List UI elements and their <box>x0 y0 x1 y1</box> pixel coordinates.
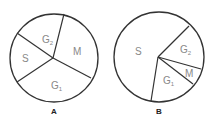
pie-diagram-a: G2MSG1A <box>10 14 98 116</box>
phase-label: M <box>185 68 193 79</box>
diagram-caption: B <box>156 107 162 116</box>
pie-diagram-b: SG2MG1B <box>114 12 204 116</box>
phase-label: S <box>22 53 29 64</box>
phase-label: M <box>73 46 81 57</box>
cell-cycle-pie-diagrams: G2MSG1ASG2MG1B <box>0 0 211 120</box>
diagram-caption: A <box>51 107 57 116</box>
phase-label: S <box>135 46 142 57</box>
